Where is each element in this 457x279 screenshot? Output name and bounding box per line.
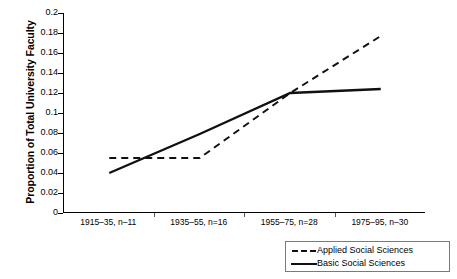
x-axis-tick-label: 1915–35, n–11	[80, 217, 136, 227]
x-axis-tick-label: 1955–75, n=28	[261, 217, 318, 227]
y-axis-tick-label: 0.2	[20, 8, 58, 17]
legend-label-basic-social-sciences: Basic Social Sciences	[317, 258, 405, 269]
y-axis-tick-mark	[58, 113, 63, 114]
series-line-applied-social-sciences	[109, 36, 381, 158]
y-axis-tick-mark	[58, 73, 63, 74]
y-axis-tick-mark	[58, 153, 63, 154]
y-axis-tick-label: 0.06	[20, 148, 58, 157]
solid-line-swatch-icon	[291, 259, 317, 269]
x-axis-tick-mark	[335, 213, 336, 217]
y-axis-tick-label: 0.08	[20, 128, 58, 137]
legend-label-applied-social-sciences: Applied Social Sciences	[317, 245, 413, 256]
y-axis-tick-mark	[58, 193, 63, 194]
legend-entry-basic-social-sciences: Basic Social Sciences	[286, 257, 449, 270]
x-axis-tick-mark	[154, 213, 155, 217]
x-axis-tick-label: 1975–95, n–30	[351, 217, 408, 227]
x-axis-tick-mark	[244, 213, 245, 217]
legend-entry-applied-social-sciences: Applied Social Sciences	[286, 244, 449, 257]
dashed-line-swatch-icon	[291, 246, 317, 256]
chart-legend: Applied Social Sciences Basic Social Sci…	[285, 241, 450, 272]
y-axis-tick-label: 0	[20, 208, 58, 217]
y-axis-tick-mark	[58, 33, 63, 34]
y-axis-tick-mark	[58, 213, 63, 214]
y-axis-tick-mark	[58, 173, 63, 174]
y-axis-tick-label-group: 0.20.180.160.140.120.10.080.060.040.020	[20, 0, 58, 279]
line-chart-figure: Proportion of Total University Faculty 0…	[0, 0, 457, 279]
plot-series-svg	[64, 13, 426, 213]
y-axis-tick-mark	[58, 53, 63, 54]
y-axis-tick-label: 0.1	[20, 108, 58, 117]
y-axis-tick-label: 0.04	[20, 168, 58, 177]
y-axis-tick-mark	[58, 133, 63, 134]
y-axis-tick-mark	[58, 93, 63, 94]
y-axis-tick-label: 0.16	[20, 48, 58, 57]
series-line-basic-social-sciences	[109, 89, 381, 173]
x-axis-tick-label: 1935–55, n=16	[170, 217, 227, 227]
y-axis-tick-label: 0.12	[20, 88, 58, 97]
y-axis-tick-mark	[58, 13, 63, 14]
y-axis-tick-label: 0.02	[20, 188, 58, 197]
y-axis-tick-label: 0.14	[20, 68, 58, 77]
plot-area	[63, 13, 425, 213]
y-axis-tick-label: 0.18	[20, 28, 58, 37]
